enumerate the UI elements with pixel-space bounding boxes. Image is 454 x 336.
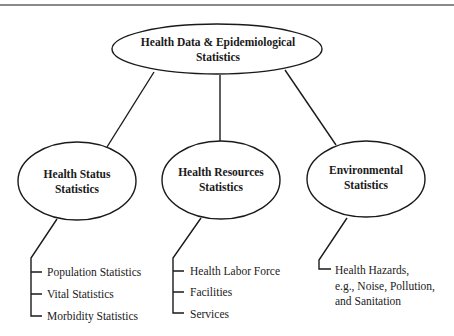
root-label-line1: Health Data & Epidemiological xyxy=(141,36,295,49)
node-environmental: Environmental Statistics xyxy=(307,141,425,217)
hierarchy-diagram: Health Data & Epidemiological Statistics… xyxy=(0,0,454,336)
root-node: Health Data & Epidemiological Statistics xyxy=(112,24,322,74)
edge-root-to-environmental xyxy=(285,70,336,145)
leaf-facilities: Facilities xyxy=(190,286,233,298)
health-status-ellipse xyxy=(18,142,136,220)
leaf-health-hazards-line2: e.g., Noise, Pollution, xyxy=(335,280,435,293)
bracket-environmental-lines xyxy=(319,218,347,269)
health-resources-label-line2: Statistics xyxy=(199,181,244,193)
leaf-health-hazards-line3: and Sanitation xyxy=(335,295,401,307)
leaf-health-hazards-line1: Health Hazards, xyxy=(335,264,409,277)
leaf-population-statistics: Population Statistics xyxy=(47,266,142,279)
bracket-health-resources: Health Labor Force Facilities Services xyxy=(173,218,280,320)
leaf-health-labor-force: Health Labor Force xyxy=(190,265,280,277)
environmental-label-line2: Statistics xyxy=(344,179,389,191)
node-health-resources: Health Resources Statistics xyxy=(162,141,280,219)
environmental-label-line1: Environmental xyxy=(329,164,403,176)
node-health-status: Health Status Statistics xyxy=(18,142,136,220)
edge-root-to-health-status xyxy=(107,72,154,147)
health-status-label-line1: Health Status xyxy=(44,168,111,180)
root-label-line2: Statistics xyxy=(196,51,241,63)
root-ellipse xyxy=(112,24,322,74)
bracket-environmental: Health Hazards, e.g., Noise, Pollution, … xyxy=(319,218,435,307)
leaf-vital-statistics: Vital Statistics xyxy=(47,288,114,300)
leaf-services: Services xyxy=(190,308,229,320)
health-resources-label-line1: Health Resources xyxy=(178,166,264,178)
leaf-morbidity-statistics: Morbidity Statistics xyxy=(47,310,139,323)
health-status-label-line2: Statistics xyxy=(55,183,100,195)
bracket-health-status: Population Statistics Vital Statistics M… xyxy=(31,219,142,323)
health-resources-ellipse xyxy=(162,141,280,219)
